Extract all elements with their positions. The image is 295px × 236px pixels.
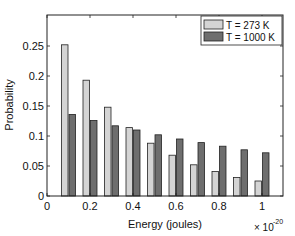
x-tick-label: 0.4 <box>125 200 140 212</box>
y-tick-label: 0.2 <box>29 70 44 82</box>
bar-273k <box>83 80 90 196</box>
bar-273k <box>191 165 198 196</box>
legend: T = 273 K T = 1000 K <box>201 16 282 45</box>
x-axis-label: Energy (joules) <box>128 218 202 230</box>
x-exponent-base: × 10 <box>254 222 274 233</box>
legend-label-273k: T = 273 K <box>226 20 270 31</box>
x-tick-label: 0 <box>44 200 50 212</box>
bar-273k <box>255 181 262 196</box>
bar-1000k <box>91 120 98 196</box>
bars <box>62 45 270 196</box>
y-tick-label: 0.25 <box>23 40 44 52</box>
y-tick-label: 0.05 <box>23 160 44 172</box>
y-tick-label: 0.1 <box>29 130 44 142</box>
legend-swatch-273k <box>204 20 223 29</box>
bar-1000k <box>198 143 205 196</box>
x-tick-label: 0.6 <box>168 200 183 212</box>
bar-1000k <box>69 114 76 196</box>
figure: 00.20.40.60.81 00.050.10.150.20.25 Energ… <box>0 0 295 236</box>
x-tick-label: 0.8 <box>211 200 226 212</box>
y-axis-label: Probability <box>3 79 15 131</box>
y-tick-label: 0.15 <box>23 100 44 112</box>
bar-1000k <box>241 150 248 196</box>
legend-swatch-1000k <box>204 32 223 41</box>
bar-273k <box>169 155 176 196</box>
x-exponent-power: -20 <box>273 218 283 225</box>
bar-1000k <box>263 153 270 196</box>
bar-1000k <box>177 139 184 196</box>
bar-1000k <box>220 146 227 196</box>
bar-chart: 00.20.40.60.81 00.050.10.150.20.25 Energ… <box>0 0 295 236</box>
bar-273k <box>62 45 69 196</box>
bar-273k <box>212 171 219 196</box>
bar-273k <box>234 177 241 196</box>
x-exponent: × 10 -20 <box>254 218 283 233</box>
bar-1000k <box>112 126 119 196</box>
legend-label-1000k: T = 1000 K <box>226 32 275 43</box>
bar-1000k <box>155 135 162 196</box>
bar-273k <box>148 143 155 196</box>
y-tick-label: 0 <box>38 190 44 202</box>
x-tick-label: 0.2 <box>82 200 97 212</box>
bar-1000k <box>134 130 141 196</box>
x-tick-label: 1 <box>259 200 265 212</box>
bar-273k <box>126 128 133 196</box>
bar-273k <box>105 107 112 196</box>
